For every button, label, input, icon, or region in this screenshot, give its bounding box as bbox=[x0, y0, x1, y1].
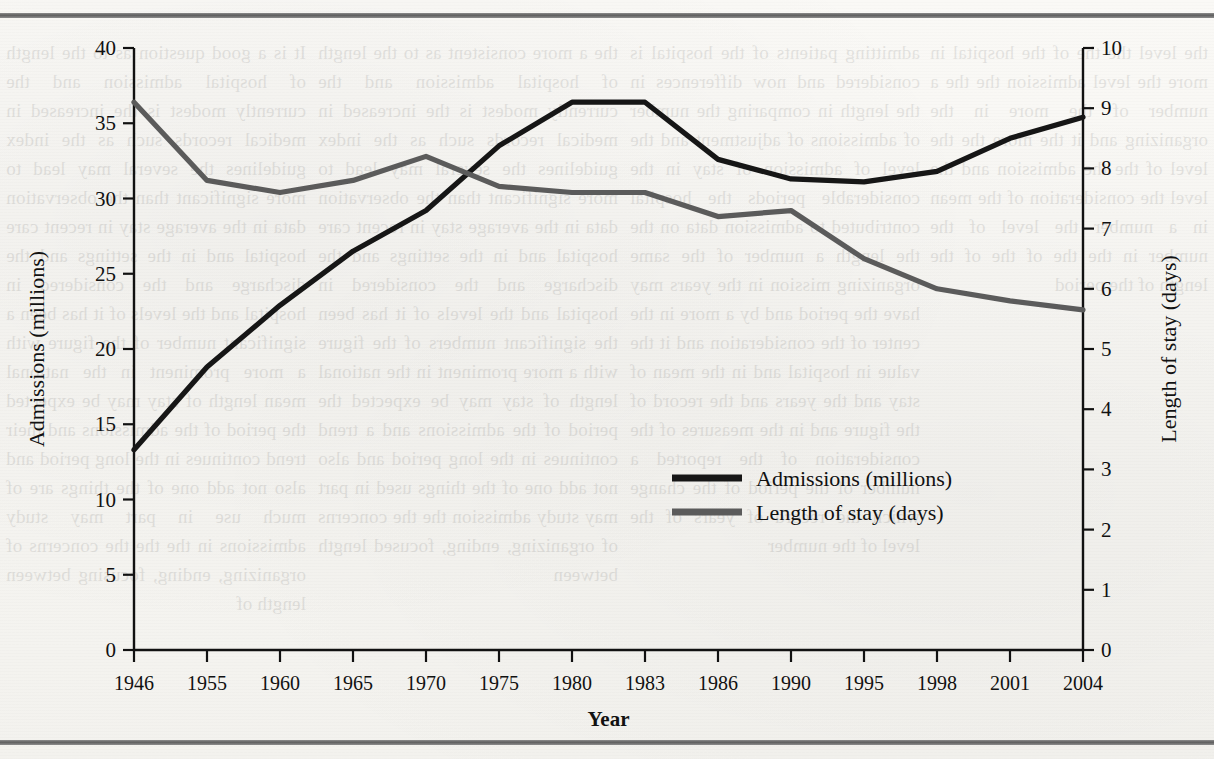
y-axis-tick-label: 25 bbox=[95, 262, 116, 286]
y2-axis-tick-label: 3 bbox=[1101, 457, 1112, 481]
page-rule-top bbox=[0, 13, 1214, 18]
y2-axis-tick-label: 6 bbox=[1101, 277, 1112, 301]
x-axis-tick-label: 1965 bbox=[333, 672, 373, 694]
y-axis-tick-label: 5 bbox=[106, 563, 117, 587]
y2-axis-tick-label: 2 bbox=[1101, 518, 1112, 542]
x-axis-tick-label: 1983 bbox=[625, 672, 665, 694]
axes: 0510152025303540012345678910194619551960… bbox=[95, 36, 1122, 694]
y2-axis-tick-label: 1 bbox=[1101, 578, 1112, 602]
chart-svg: 0510152025303540012345678910194619551960… bbox=[0, 20, 1214, 735]
y2-axis-tick-label: 4 bbox=[1101, 397, 1112, 421]
y2-axis-tick-label: 0 bbox=[1101, 638, 1112, 662]
y2-axis-tick-label: 7 bbox=[1101, 217, 1112, 241]
y-axis-tick-label: 35 bbox=[95, 111, 116, 135]
axis-titles: Admissions (millions)Length of stay (day… bbox=[24, 251, 1181, 731]
y2-axis-tick-label: 8 bbox=[1101, 156, 1112, 180]
series-line-admissions bbox=[134, 102, 1083, 450]
chart-legend: Admissions (millions)Length of stay (day… bbox=[672, 466, 952, 525]
y2-axis-title: Length of stay (days) bbox=[1156, 255, 1181, 443]
y2-axis-tick-label: 9 bbox=[1101, 96, 1112, 120]
y-axis-title: Admissions (millions) bbox=[24, 251, 49, 447]
y-axis-tick-label: 20 bbox=[95, 337, 116, 361]
page-rule-bottom bbox=[0, 740, 1214, 745]
x-axis-title: Year bbox=[588, 707, 630, 731]
y-axis-tick-label: 10 bbox=[95, 488, 116, 512]
x-axis-tick-label: 1946 bbox=[114, 672, 154, 694]
y-axis-tick-label: 15 bbox=[95, 412, 116, 436]
x-axis-tick-label: 1960 bbox=[260, 672, 300, 694]
x-axis-tick-label: 1998 bbox=[917, 672, 957, 694]
x-axis-tick-label: 2001 bbox=[990, 672, 1030, 694]
legend-label-1: Length of stay (days) bbox=[756, 500, 944, 525]
x-axis-tick-label: 2004 bbox=[1063, 672, 1103, 694]
y-axis-tick-label: 30 bbox=[95, 187, 116, 211]
y-axis-tick-label: 40 bbox=[95, 36, 116, 60]
legend-label-0: Admissions (millions) bbox=[756, 466, 952, 491]
x-axis-tick-label: 1975 bbox=[479, 672, 519, 694]
y2-axis-tick-label: 5 bbox=[1101, 337, 1112, 361]
y2-axis-tick-label: 10 bbox=[1101, 36, 1122, 60]
line-chart: 0510152025303540012345678910194619551960… bbox=[0, 20, 1214, 735]
x-axis-tick-label: 1990 bbox=[771, 672, 811, 694]
series-line-length bbox=[134, 102, 1083, 310]
axis-frame bbox=[134, 48, 1083, 650]
y-axis-tick-label: 0 bbox=[106, 638, 117, 662]
x-axis-tick-label: 1970 bbox=[406, 672, 446, 694]
x-axis-tick-label: 1986 bbox=[698, 672, 738, 694]
data-series bbox=[134, 102, 1083, 450]
x-axis-tick-label: 1955 bbox=[187, 672, 227, 694]
x-axis-tick-label: 1980 bbox=[552, 672, 592, 694]
x-axis-tick-label: 1995 bbox=[844, 672, 884, 694]
